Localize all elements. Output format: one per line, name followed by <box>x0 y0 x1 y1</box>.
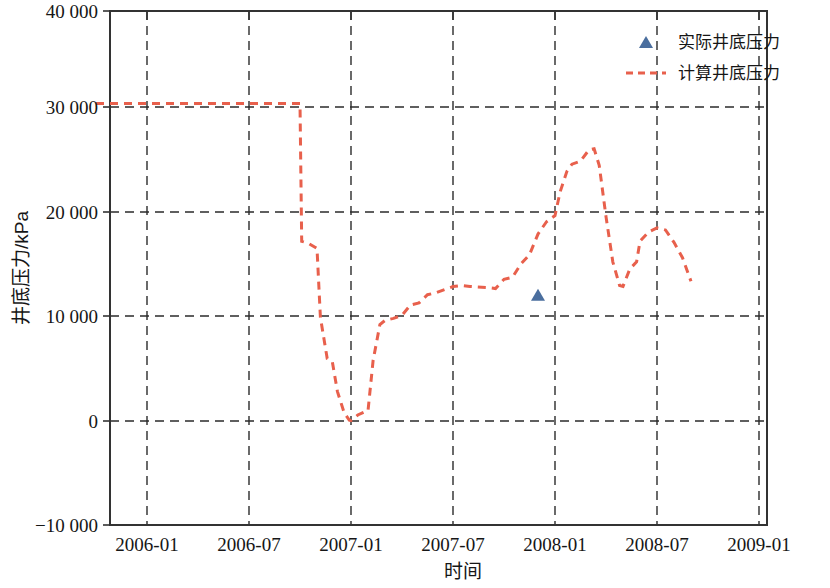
y-tick-label-30000: 30 000 <box>46 97 98 118</box>
x-tick-label-2006-07: 2006-07 <box>217 534 280 555</box>
plot-area-background <box>110 11 767 525</box>
chart-canvas: 40 000 30 000 20 000 10 000 0 −10 000 20… <box>0 0 830 588</box>
x-tick-label-2008-07: 2008-07 <box>625 534 688 555</box>
chart-figure: 40 000 30 000 20 000 10 000 0 −10 000 20… <box>0 0 830 588</box>
y-tick-label-0: 0 <box>89 411 99 432</box>
x-tick-label-2006-01: 2006-01 <box>115 534 178 555</box>
x-tick-label-2008-01: 2008-01 <box>523 534 586 555</box>
x-axis-title: 时间 <box>444 561 482 582</box>
x-tick-label-2009-01: 2009-01 <box>727 534 790 555</box>
y-tick-label-minus10000: −10 000 <box>35 515 98 536</box>
legend-label-measured: 实际井底压力 <box>678 33 780 52</box>
y-tick-label-10000: 10 000 <box>46 306 98 327</box>
x-tick-label-2007-07: 2007-07 <box>421 534 484 555</box>
y-tick-label-40000: 40 000 <box>46 1 98 22</box>
x-tick-label-2007-01: 2007-01 <box>319 534 382 555</box>
y-tick-label-20000: 20 000 <box>46 202 98 223</box>
y-axis-ticks <box>103 11 110 525</box>
y-axis-title: 井底压力/kPa <box>11 211 32 325</box>
legend-label-calculated: 计算井底压力 <box>678 64 780 83</box>
